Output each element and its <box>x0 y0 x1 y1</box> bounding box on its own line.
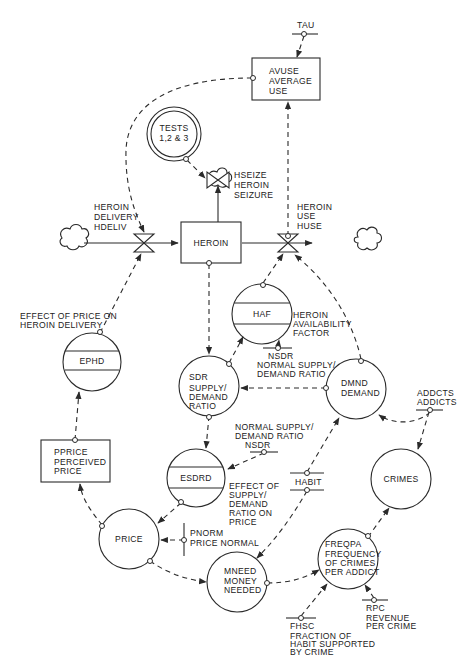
source-cloud-icon <box>60 225 88 250</box>
svg-text:HEROIN: HEROIN <box>94 202 129 212</box>
stock-pprice: PPRICE PERCEIVED PRICE <box>41 440 110 482</box>
svg-text:MNEED: MNEED <box>224 566 257 576</box>
svg-text:RPC: RPC <box>366 603 385 613</box>
rate-hseize: HSEIZE HEROIN SEIZURE <box>207 170 273 200</box>
tests-node: TESTS 1,2 & 3 <box>147 107 201 161</box>
svg-text:TAU: TAU <box>297 20 314 30</box>
svg-text:HDELIV: HDELIV <box>94 222 127 232</box>
svg-text:RATIO: RATIO <box>189 401 216 411</box>
table-function-esdrd: ESDRD EFFECT OF SUPPLY/ DEMAND RATIO ON … <box>167 449 279 527</box>
svg-text:SDR: SDR <box>189 372 208 382</box>
svg-text:CRIMES: CRIMES <box>383 474 418 484</box>
aux-mneed: MNEED MONEY NEEDED <box>207 552 267 612</box>
svg-text:FREQPA: FREQPA <box>325 539 362 549</box>
svg-text:TESTS: TESTS <box>159 123 188 133</box>
svg-text:DEMAND: DEMAND <box>341 388 380 398</box>
constant-nsdr-lower: NORMAL SUPPLY/ DEMAND RATIO NSDR <box>235 422 314 452</box>
heroin-system-dynamics-diagram: HEROIN AVUSE AVERAGE USE PPRICE PERCEIVE… <box>0 0 471 670</box>
svg-text:FHSC: FHSC <box>290 621 315 631</box>
constant-nsdr-upper: NSDR NORMAL SUPPLY/ DEMAND RATIO <box>257 348 336 379</box>
svg-text:BY CRIME: BY CRIME <box>290 647 334 657</box>
svg-text:AVERAGE: AVERAGE <box>269 76 312 86</box>
rate-hdeliv: HEROIN DELIVERY HDELIV <box>94 202 154 252</box>
svg-text:HEROIN: HEROIN <box>234 180 269 190</box>
svg-text:HUSE: HUSE <box>297 221 322 231</box>
svg-text:EPHD: EPHD <box>79 356 104 366</box>
svg-text:PRICE NORMAL: PRICE NORMAL <box>190 538 259 548</box>
svg-text:PER ADDICT: PER ADDICT <box>325 567 380 577</box>
constant-addcts: ADDCTS ADDICTS <box>416 388 457 410</box>
constant-rpc: RPC REVENUE PER CRIME <box>362 600 416 631</box>
svg-text:PNORM: PNORM <box>190 528 224 538</box>
aux-freqpa: FREQPA FREQUENCY OF CRIMES PER ADDICT <box>318 529 382 589</box>
svg-text:DMND: DMND <box>341 378 368 388</box>
svg-text:USE: USE <box>269 86 288 96</box>
svg-text:AVUSE: AVUSE <box>269 66 299 76</box>
svg-text:NSDR: NSDR <box>245 440 271 450</box>
svg-text:NEEDED: NEEDED <box>224 585 262 595</box>
svg-text:ADDICTS: ADDICTS <box>417 397 457 407</box>
svg-text:PRICE: PRICE <box>115 534 143 544</box>
svg-text:DEMAND RATIO: DEMAND RATIO <box>257 369 326 379</box>
rate-huse: HEROIN USE HUSE <box>278 202 332 252</box>
table-function-ephd: EPHD EFFECT OF PRICE ON HEROIN DELIVERY <box>20 311 121 391</box>
svg-text:1,2 & 3: 1,2 & 3 <box>159 133 188 143</box>
svg-text:HSEIZE: HSEIZE <box>234 170 267 180</box>
sink-cloud-icon <box>354 227 381 250</box>
svg-text:HEROIN DELIVERY: HEROIN DELIVERY <box>20 320 103 330</box>
svg-text:HAF: HAF <box>253 309 271 319</box>
aux-crimes: CRIMES <box>371 449 431 509</box>
stock-avuse: AVUSE AVERAGE USE <box>252 58 320 100</box>
svg-text:PRICE: PRICE <box>229 517 257 527</box>
svg-text:DELIVERY: DELIVERY <box>94 212 139 222</box>
svg-text:HEROIN: HEROIN <box>193 238 228 248</box>
constant-pnorm: PNORM PRICE NORMAL <box>184 523 259 556</box>
svg-text:SEIZURE: SEIZURE <box>234 190 273 200</box>
svg-text:FACTOR: FACTOR <box>293 328 330 338</box>
svg-text:PER CRIME: PER CRIME <box>366 621 416 631</box>
svg-text:PPRICE: PPRICE <box>54 447 88 457</box>
stock-heroin: HEROIN <box>181 222 241 263</box>
svg-text:USE: USE <box>297 211 316 221</box>
constant-fhsc: FHSC FRACTION OF HABIT SUPPORTED BY CRIM… <box>286 618 375 657</box>
svg-text:PRICE: PRICE <box>54 466 82 476</box>
svg-text:ESDRD: ESDRD <box>180 473 212 483</box>
table-function-haf: HAF HEROIN AVAILABILITY FACTOR <box>232 284 352 344</box>
svg-text:HABIT: HABIT <box>295 477 322 487</box>
